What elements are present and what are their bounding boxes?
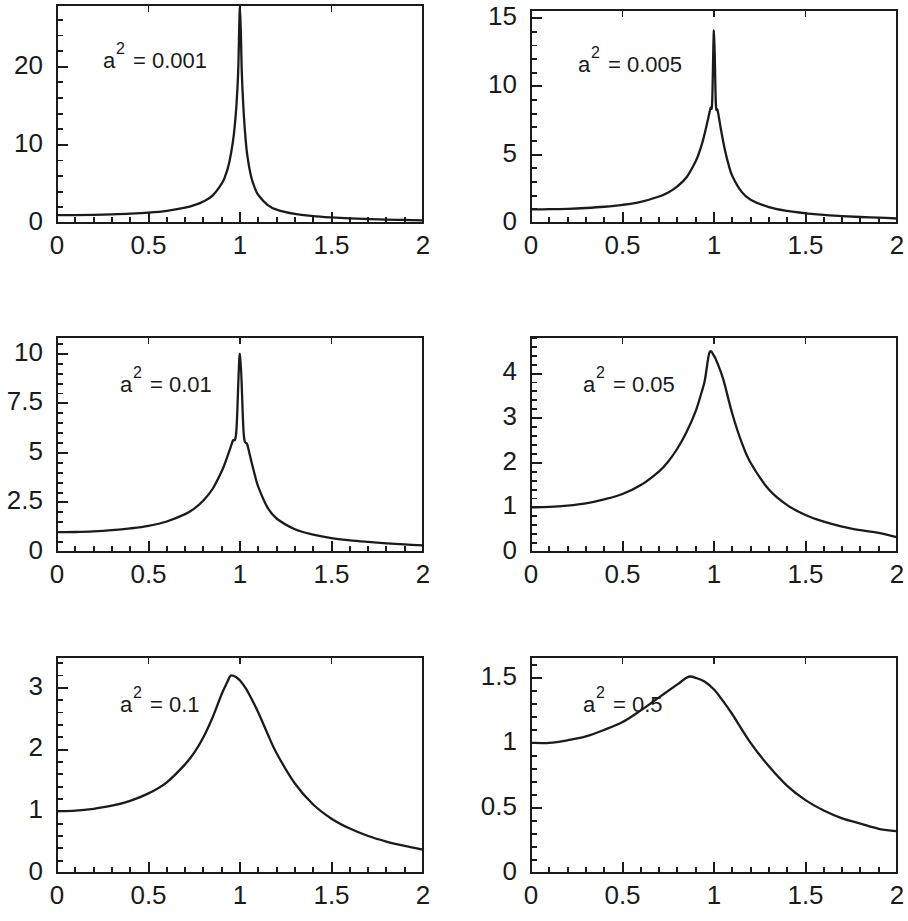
- annotation-value: = 0.05: [613, 372, 675, 397]
- y-tick-label: 0.5: [481, 791, 517, 821]
- y-tick-label: 0: [29, 206, 43, 236]
- tick-labels: 00.511.520123: [29, 671, 431, 910]
- plot-frame: [57, 657, 423, 873]
- axis-ticks: [57, 657, 423, 873]
- annotation-base: a: [583, 372, 596, 397]
- plot-panel-1: 00.511.5201020a2= 0.001: [0, 0, 437, 275]
- y-tick-label: 0: [29, 535, 43, 565]
- x-tick-label: 0: [50, 230, 64, 260]
- x-tick-label: 0.5: [604, 230, 640, 260]
- parameter-annotation: a2= 0.05: [583, 364, 675, 397]
- x-tick-label: 0.5: [130, 880, 166, 910]
- x-tick-label: 1: [707, 880, 721, 910]
- y-tick-label: 0: [29, 856, 43, 886]
- annotation-superscript: 2: [133, 684, 142, 701]
- data-curve: [57, 354, 423, 546]
- annotation-value: = 0.005: [608, 52, 682, 77]
- parameter-annotation: a2= 0.1: [120, 684, 200, 717]
- x-tick-label: 1: [233, 230, 247, 260]
- y-tick-label: 0: [503, 535, 517, 565]
- x-tick-label: 1.5: [787, 559, 823, 589]
- x-tick-label: 0.5: [130, 230, 166, 260]
- y-tick-label: 2: [503, 446, 517, 476]
- y-tick-label: 1: [503, 726, 517, 756]
- x-tick-label: 1: [707, 230, 721, 260]
- y-tick-label: 20: [14, 50, 43, 80]
- parameter-annotation: a2= 0.001: [103, 40, 207, 73]
- x-tick-label: 2: [890, 880, 904, 910]
- y-tick-label: 0: [503, 206, 517, 236]
- annotation-superscript: 2: [596, 364, 605, 381]
- plot-panel-5: 00.511.520123a2= 0.1: [0, 617, 437, 921]
- tick-labels: 00.511.5201020: [14, 50, 430, 261]
- data-curve: [57, 675, 423, 849]
- y-tick-label: 3: [29, 671, 43, 701]
- plot-panel-3: 00.511.5202.557.510a2= 0.01: [0, 297, 437, 604]
- annotation-value: = 0.5: [613, 692, 663, 717]
- x-tick-label: 1.5: [787, 230, 823, 260]
- y-tick-label: 10: [14, 128, 43, 158]
- data-curve: [57, 7, 423, 220]
- x-tick-label: 0: [524, 880, 538, 910]
- x-tick-label: 0.5: [130, 559, 166, 589]
- x-tick-label: 0: [524, 230, 538, 260]
- annotation-base: a: [583, 692, 596, 717]
- x-tick-label: 0: [50, 559, 64, 589]
- annotation-superscript: 2: [591, 44, 600, 61]
- plot-panel-4: 00.511.5201234a2= 0.05: [411, 297, 908, 604]
- x-tick-label: 1.5: [313, 559, 349, 589]
- y-tick-label: 7.5: [7, 386, 43, 416]
- annotation-superscript: 2: [596, 684, 605, 701]
- y-tick-label: 5: [503, 138, 517, 168]
- x-tick-label: 0: [524, 559, 538, 589]
- x-tick-label: 0: [50, 880, 64, 910]
- y-tick-label: 1.5: [481, 661, 517, 691]
- y-tick-label: 10: [14, 337, 43, 367]
- tick-labels: 00.511.5201234: [503, 356, 905, 589]
- x-tick-label: 2: [890, 559, 904, 589]
- y-tick-label: 1: [503, 490, 517, 520]
- annotation-value: = 0.1: [150, 692, 200, 717]
- parameter-annotation: a2= 0.5: [583, 684, 663, 717]
- annotation-superscript: 2: [133, 364, 142, 381]
- y-tick-label: 3: [503, 401, 517, 431]
- plot-panel-2: 00.511.52051015a2= 0.005: [411, 0, 908, 275]
- annotation-value: = 0.01: [150, 372, 212, 397]
- annotation-value: = 0.001: [133, 48, 207, 73]
- axis-ticks: [531, 337, 897, 552]
- y-tick-label: 15: [488, 1, 517, 31]
- plot-frame: [531, 337, 897, 552]
- x-tick-label: 1.5: [787, 880, 823, 910]
- annotation-superscript: 2: [116, 40, 125, 57]
- figure-resonance-curves: 00.511.5201020a2= 0.00100.511.52051015a2…: [0, 0, 908, 921]
- annotation-base: a: [103, 48, 116, 73]
- y-tick-label: 1: [29, 794, 43, 824]
- x-tick-label: 1: [233, 559, 247, 589]
- y-tick-label: 2.5: [7, 485, 43, 515]
- plot-panel-6: 00.511.5200.511.5a2= 0.5: [411, 617, 908, 921]
- annotation-base: a: [578, 52, 591, 77]
- x-tick-label: 1.5: [313, 880, 349, 910]
- x-tick-label: 0.5: [604, 880, 640, 910]
- y-tick-label: 0: [503, 856, 517, 886]
- y-tick-label: 2: [29, 732, 43, 762]
- annotation-base: a: [120, 372, 133, 397]
- x-tick-label: 1: [233, 880, 247, 910]
- y-tick-label: 10: [488, 69, 517, 99]
- annotation-base: a: [120, 692, 133, 717]
- y-tick-label: 4: [503, 356, 517, 386]
- x-tick-label: 1: [707, 559, 721, 589]
- x-tick-label: 1.5: [313, 230, 349, 260]
- x-tick-label: 0.5: [604, 559, 640, 589]
- y-tick-label: 5: [29, 436, 43, 466]
- parameter-annotation: a2= 0.005: [578, 44, 682, 77]
- x-tick-label: 2: [890, 230, 904, 260]
- parameter-annotation: a2= 0.01: [120, 364, 212, 397]
